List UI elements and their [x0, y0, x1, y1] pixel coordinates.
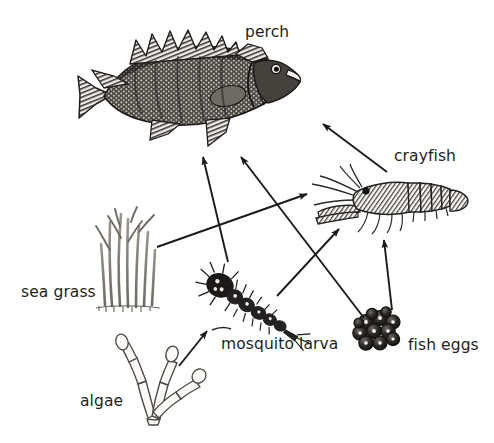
label-mosquito-larva: mosquito larva	[221, 337, 338, 353]
label-perch: perch	[245, 25, 289, 41]
arrow-sea-grass-to-crayfish	[157, 194, 307, 247]
crayfish-illustration	[312, 164, 468, 234]
arrow-mosquito-larva-to-perch	[203, 157, 228, 262]
label-crayfish: crayfish	[394, 149, 456, 165]
arrow-algae-to-mosquito-larva	[179, 331, 207, 366]
label-algae: algae	[80, 394, 123, 410]
label-fish-eggs: fish eggs	[408, 338, 479, 354]
food-web-diagram: perch crayfish sea grass mosquito larva …	[0, 0, 494, 443]
arrow-crayfish-to-perch	[323, 124, 387, 172]
arrow-fish-eggs-to-crayfish	[384, 240, 392, 310]
sea-grass-illustration	[96, 207, 160, 312]
arrow-fish-eggs-to-perch	[241, 157, 364, 318]
perch-illustration	[78, 30, 300, 146]
label-sea-grass: sea grass	[21, 285, 96, 301]
larva-detail-mark	[212, 328, 231, 330]
diagram-canvas	[0, 0, 494, 443]
arrow-mosquito-larva-to-crayfish	[277, 229, 339, 296]
